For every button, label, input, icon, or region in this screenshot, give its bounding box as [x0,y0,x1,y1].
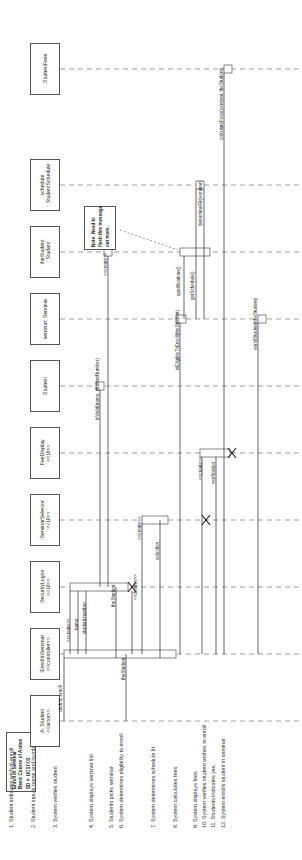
message-label: <<create>> [103,253,108,277]
activation-bar [200,449,230,457]
message-label: student number [82,602,87,634]
message-label: determineFit(seminar) [198,181,203,226]
message-label: <<create>> [137,517,142,541]
message-label: wish to enroll [58,685,63,712]
message-label: calculateFees(seminar, theStudent) [219,68,224,140]
activation-bar [224,65,232,73]
note-connector [120,230,178,250]
diagram-lines [0,0,302,860]
activation-bar [142,516,168,524]
message-label: name [74,619,79,631]
message-label: <<create>> [66,619,71,643]
activation-bar [64,650,176,658]
message-label: qualifications() [176,266,181,296]
comment-note: Note: Need to flesh this message out mor… [84,206,116,250]
message-label: verification [211,462,216,484]
message-label: getSchedule() [190,271,195,300]
message-label: theStudent [121,658,126,680]
message-label: isEligibleToEnroll(theStudent) [175,310,180,370]
activation-bar [258,315,266,323]
activation-bar [180,248,210,256]
message-label: <<destroy>> [133,574,138,600]
activation-bar [70,583,128,591]
message-label: <<create>> [198,457,203,481]
message-label: isValid(name, studentNumber) [95,358,100,420]
message-label: theStudent [111,585,116,607]
message-label: enrollStudent(theStudent) [253,298,258,350]
message-label: selection [155,542,160,560]
